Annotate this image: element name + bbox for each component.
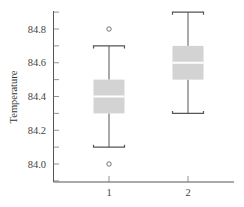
box-2 [173, 12, 204, 113]
outlier-point [107, 162, 111, 166]
y-ticks: 84.084.284.484.684.8 [28, 12, 59, 181]
x-tick-label: 1 [106, 187, 111, 198]
y-tick-label: 84.6 [28, 57, 46, 68]
y-tick-label: 84.0 [28, 159, 46, 170]
x-tick-label: 2 [185, 187, 190, 198]
y-tick-label: 84.8 [28, 24, 46, 35]
boxes [94, 12, 204, 166]
box-1 [94, 27, 125, 166]
x-ticks: 12 [106, 176, 190, 198]
box-plot-chart: 84.084.284.484.684.8 12 Temperature [0, 0, 244, 207]
y-axis-title: Temperature [8, 70, 19, 123]
y-tick-label: 84.4 [28, 91, 47, 102]
y-tick-label: 84.2 [28, 125, 46, 136]
outlier-point [107, 27, 111, 31]
